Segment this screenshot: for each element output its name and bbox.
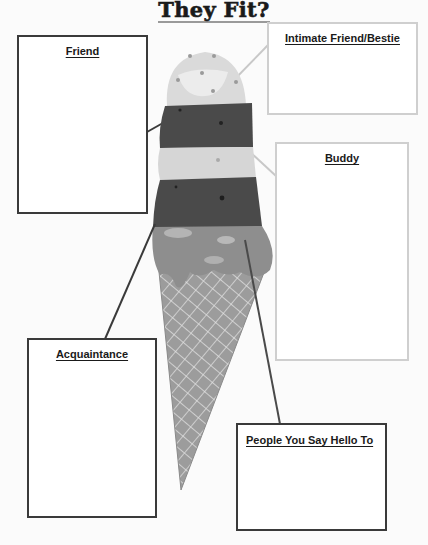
top-scoop-icon (167, 52, 246, 106)
acquaintance-connector-line (105, 224, 155, 339)
dark-band-2 (153, 177, 262, 227)
intimate-friend-label: Intimate Friend/Bestie (269, 32, 416, 44)
friend-label: Friend (19, 45, 146, 57)
buddy-box[interactable]: Buddy (275, 142, 409, 361)
friend-box[interactable]: Friend (17, 35, 148, 214)
intimate-friend-box[interactable]: Intimate Friend/Bestie (267, 22, 418, 115)
acquaintance-box[interactable]: Acquaintance (27, 338, 157, 518)
dark-band-1 (160, 103, 253, 148)
buddy-label: Buddy (277, 152, 407, 164)
people-hello-box[interactable]: People You Say Hello To (236, 423, 387, 531)
people-hello-label: People You Say Hello To (238, 434, 385, 446)
light-band (158, 147, 256, 180)
acquaintance-label: Acquaintance (29, 348, 155, 360)
